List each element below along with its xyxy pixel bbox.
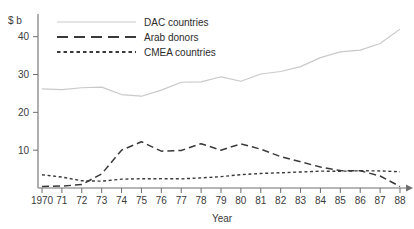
x-tick-label: 80 [235,195,247,206]
x-tick-label: 71 [56,195,68,206]
x-tick-label: 73 [96,195,108,206]
y-tick-label: 30 [18,69,30,80]
y-tick-label: 20 [18,107,30,118]
chart-legend: DAC countriesArab donorsCMEA countries [57,17,216,58]
series-line-dac-countries [42,29,400,96]
x-tick-label: 81 [255,195,267,206]
x-axis-title: Year [212,213,233,224]
x-tick-label: 75 [136,195,148,206]
x-tick-label: 84 [315,195,327,206]
chart-container: $ b DAC countriesArab donorsCMEA countri… [0,0,414,229]
x-tick-label: 79 [215,195,227,206]
x-tick-label: 77 [176,195,188,206]
y-tick-label: 10 [18,145,30,156]
y-tick-label: 40 [18,31,30,42]
x-tick-label: 86 [355,195,367,206]
x-tick-label: 82 [275,195,287,206]
x-tick-label: 78 [196,195,208,206]
series-line-cmea-countries [42,171,400,181]
legend-label: DAC countries [144,17,208,28]
legend-label: Arab donors [144,32,198,43]
x-tick-label: 1970 [31,195,54,206]
line-chart: $ b DAC countriesArab donorsCMEA countri… [0,0,414,229]
series-line-arab-donors [42,142,400,187]
y-axis-ticks: 10203040 [18,31,38,155]
y-axis-unit-label: $ b [8,15,22,26]
x-tick-label: 72 [76,195,88,206]
x-tick-label: 87 [375,195,387,206]
data-series-group [42,29,400,186]
x-axis-ticks: 1970717273747576777879808182838485868788 [31,188,406,206]
x-tick-label: 85 [335,195,347,206]
x-tick-label: 74 [116,195,128,206]
legend-label: CMEA countries [144,47,216,58]
x-tick-label: 88 [394,195,406,206]
x-axis-arrow-icon [406,185,413,192]
x-tick-label: 83 [295,195,307,206]
x-tick-label: 76 [156,195,168,206]
